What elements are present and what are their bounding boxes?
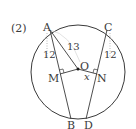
length-label-on-x: x bbox=[84, 71, 90, 82]
point-label-a: A bbox=[42, 21, 52, 34]
point-label-n: N bbox=[97, 72, 107, 85]
point-label-b: B bbox=[67, 119, 75, 129]
length-label-am: 12 bbox=[43, 49, 56, 60]
segment-om bbox=[60, 69, 78, 74]
diagram-canvas: (2) A C O M N B D 12 13 12 x bbox=[0, 0, 136, 129]
point-label-d: D bbox=[84, 119, 93, 129]
point-label-m: M bbox=[48, 72, 59, 85]
length-label-cn: 12 bbox=[104, 49, 117, 60]
length-label-ao: 13 bbox=[67, 41, 80, 52]
problem-number-label: (2) bbox=[11, 22, 27, 35]
geometry-figure: (2) A C O M N B D 12 13 12 x bbox=[0, 0, 136, 129]
point-label-c: C bbox=[104, 21, 112, 34]
circle bbox=[31, 25, 125, 119]
